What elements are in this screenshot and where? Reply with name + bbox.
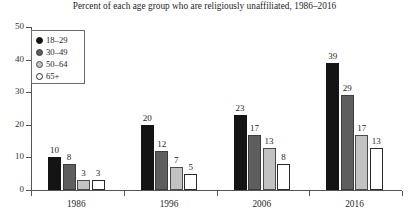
legend-swatch-icon-65-plus bbox=[36, 73, 43, 80]
bar-value-label: 20 bbox=[132, 114, 162, 123]
y-axis-tick bbox=[26, 92, 31, 93]
bar-1986-65+ bbox=[92, 180, 105, 190]
x-axis-tick bbox=[309, 191, 310, 196]
y-axis-label: 40 bbox=[2, 55, 24, 64]
legend-label-30-49: 30–49 bbox=[46, 48, 67, 57]
bar-1986-18–29 bbox=[48, 157, 61, 190]
bar-value-label: 5 bbox=[176, 163, 206, 172]
bar-1996-65+ bbox=[184, 174, 197, 190]
legend-swatch-icon-30-49 bbox=[36, 49, 43, 56]
legend-item-18-29: 18–29 bbox=[36, 34, 84, 46]
y-axis-label: 50 bbox=[2, 22, 24, 31]
bar-1996-18–29 bbox=[141, 125, 154, 190]
bar-value-label: 13 bbox=[254, 137, 284, 146]
y-axis-label: 0 bbox=[2, 185, 24, 194]
x-axis-tick bbox=[124, 191, 125, 196]
y-axis-label: 10 bbox=[2, 152, 24, 161]
bar-1986-50–64 bbox=[77, 180, 90, 190]
x-axis-tick bbox=[402, 191, 403, 196]
legend-swatch-icon-50-64 bbox=[36, 61, 43, 68]
x-axis-tick bbox=[217, 191, 218, 196]
x-axis-label: 2016 bbox=[325, 199, 385, 210]
bar-value-label: 8 bbox=[269, 153, 299, 162]
bar-value-label: 23 bbox=[225, 104, 255, 113]
y-axis-label: 20 bbox=[2, 120, 24, 129]
bar-value-label: 17 bbox=[347, 124, 377, 133]
legend-item-50-64: 50–64 bbox=[36, 58, 84, 70]
legend-swatch-icon-18-29 bbox=[36, 37, 43, 44]
legend-label-65-plus: 65+ bbox=[46, 72, 59, 81]
bar-value-label: 39 bbox=[318, 52, 348, 61]
legend-label-18-29: 18–29 bbox=[46, 36, 67, 45]
y-axis-tick bbox=[26, 157, 31, 158]
legend-label-50-64: 50–64 bbox=[46, 60, 67, 69]
legend-item-30-49: 30–49 bbox=[36, 46, 84, 58]
y-axis-tick bbox=[26, 125, 31, 126]
legend-item-65-plus: 65+ bbox=[36, 70, 84, 82]
x-axis-label: 1996 bbox=[139, 199, 199, 210]
y-axis-tick bbox=[26, 27, 31, 28]
bar-value-label: 17 bbox=[240, 124, 270, 133]
chart-legend: 18–29 30–49 50–64 65+ bbox=[31, 30, 85, 84]
y-axis-label: 30 bbox=[2, 87, 24, 96]
bar-value-label: 8 bbox=[54, 153, 84, 162]
chart-title: Percent of each age group who are religi… bbox=[0, 1, 409, 11]
x-axis-label: 1986 bbox=[46, 199, 106, 210]
bar-2016-65+ bbox=[370, 148, 383, 190]
x-axis-label: 2006 bbox=[232, 199, 292, 210]
bar-value-label: 3 bbox=[83, 169, 113, 178]
bar-2006-65+ bbox=[277, 164, 290, 190]
bar-2016-30–49 bbox=[341, 95, 354, 190]
bar-2016-18–29 bbox=[326, 63, 339, 190]
x-axis-tick bbox=[31, 191, 32, 196]
bar-value-label: 12 bbox=[147, 140, 177, 149]
bar-value-label: 29 bbox=[332, 84, 362, 93]
bar-value-label: 13 bbox=[361, 137, 391, 146]
bar-chart: Percent of each age group who are religi… bbox=[0, 0, 409, 221]
